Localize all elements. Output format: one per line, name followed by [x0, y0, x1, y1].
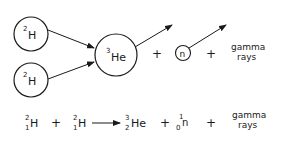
svg-text:rays: rays	[238, 120, 258, 130]
svg-text:2: 2	[73, 114, 77, 122]
deuterium-node-1: 2 H	[14, 17, 48, 51]
nuclear-equation: 2 1 H + 2 1 H 3 2 He + 1 0 n + gamma ray…	[25, 110, 266, 132]
svg-text:H: H	[30, 117, 38, 130]
deuterium-node-2: 2 H	[14, 63, 48, 97]
svg-text:n: n	[180, 49, 186, 59]
svg-text:2: 2	[25, 114, 29, 122]
arrow-d1-to-he	[48, 30, 94, 48]
helium3-node: 3 He	[95, 34, 137, 76]
svg-text:H: H	[28, 29, 36, 42]
svg-text:2: 2	[23, 25, 27, 33]
svg-text:2: 2	[23, 71, 27, 79]
svg-text:H: H	[78, 117, 86, 130]
svg-text:H: H	[28, 75, 36, 88]
svg-text:0: 0	[176, 124, 180, 132]
arrow-neutron-out	[189, 25, 226, 48]
arrow-he-out	[135, 25, 172, 47]
svg-text:3: 3	[125, 114, 129, 122]
gamma-rays-label-top: gamma	[231, 42, 265, 52]
svg-text:He: He	[111, 51, 126, 64]
svg-text:He: He	[131, 117, 146, 130]
svg-text:gamma: gamma	[232, 110, 266, 120]
svg-text:n: n	[182, 117, 188, 128]
arrow-d2-to-he	[48, 62, 94, 79]
plus-sign-2: +	[206, 47, 216, 61]
plus-sign-1: +	[152, 47, 162, 61]
svg-text:1: 1	[25, 124, 29, 132]
svg-text:+: +	[206, 116, 216, 130]
svg-text:3: 3	[106, 47, 110, 55]
svg-text:+: +	[160, 116, 170, 130]
svg-text:1: 1	[73, 124, 77, 132]
svg-text:+: +	[51, 116, 61, 130]
gamma-rays-label-bottom: rays	[237, 52, 257, 62]
fusion-diagram: 2 H 2 H 3 He + n + gamma rays 2 1 H + 2 …	[0, 0, 282, 143]
neutron-node: n	[176, 46, 191, 61]
svg-text:2: 2	[125, 124, 129, 132]
